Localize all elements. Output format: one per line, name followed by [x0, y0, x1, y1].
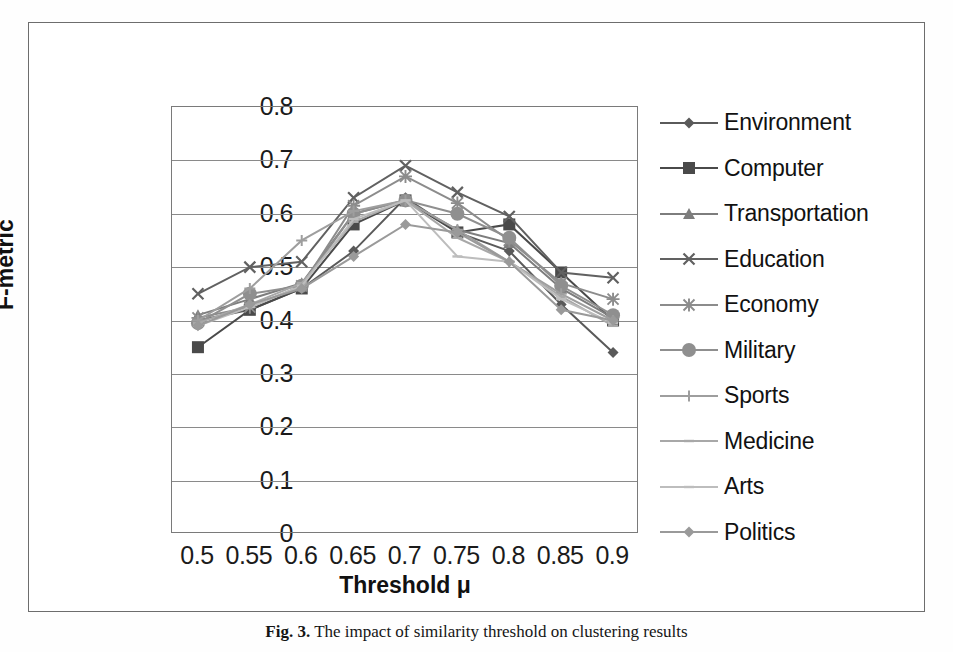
legend-marker-circle-icon: [660, 341, 718, 359]
legend-swatch: [660, 252, 718, 266]
legend-marker-dash-icon: [660, 432, 718, 450]
legend-swatch: [660, 343, 718, 357]
data-point-diamond: [400, 219, 411, 230]
legend-marker-triangle-icon: [660, 205, 718, 223]
legend-item-computer[interactable]: Computer: [660, 146, 910, 192]
legend-swatch: [660, 389, 718, 403]
legend-marker-star-icon: [660, 296, 718, 314]
legend-item-economy[interactable]: Economy: [660, 282, 910, 328]
data-point-plus: [684, 390, 695, 401]
legend-swatch: [660, 298, 718, 312]
legend-label: Military: [724, 337, 795, 364]
legend-swatch: [660, 525, 718, 539]
data-point-cross: [400, 160, 411, 171]
caption-text: The impact of similarity threshold on cl…: [314, 622, 687, 641]
legend-swatch: [660, 116, 718, 130]
legend-label: Sports: [724, 382, 789, 409]
legend-marker-plus-icon: [660, 387, 718, 405]
legend-item-medicine[interactable]: Medicine: [660, 419, 910, 465]
data-point-circle: [450, 207, 464, 221]
legend-marker-diamond-icon: [660, 523, 718, 541]
data-point-diamond: [684, 117, 695, 128]
legend-label: Education: [724, 246, 825, 273]
legend-label: Medicine: [724, 428, 814, 455]
legend-item-sports[interactable]: Sports: [660, 373, 910, 419]
figure-container: F-metric 00.10.20.30.40.50.60.70.8 0.50.…: [0, 0, 953, 652]
legend-label: Arts: [724, 473, 764, 500]
data-point-cross: [452, 187, 463, 198]
data-point-star: [683, 298, 696, 311]
data-point-square: [683, 162, 695, 174]
chart-legend: EnvironmentComputerTransportationEducati…: [660, 100, 910, 555]
legend-label: Computer: [724, 155, 823, 182]
data-point-diamond: [684, 527, 695, 538]
legend-marker-cross-icon: [660, 250, 718, 268]
legend-marker-square-icon: [660, 159, 718, 177]
legend-item-politics[interactable]: Politics: [660, 510, 910, 556]
legend-marker-diamond-icon: [660, 114, 718, 132]
caption-number: Fig. 3.: [265, 622, 310, 641]
data-point-square: [192, 341, 204, 353]
figure-caption: Fig. 3. The impact of similarity thresho…: [0, 622, 953, 652]
data-point-triangle: [683, 208, 695, 219]
series-politics: [192, 219, 618, 331]
data-point-star: [399, 170, 412, 183]
series-environment: [192, 192, 618, 358]
legend-item-education[interactable]: Education: [660, 237, 910, 283]
legend-item-military[interactable]: Military: [660, 328, 910, 374]
data-point-circle: [682, 343, 696, 357]
x-tick-label: 0.9: [577, 541, 647, 570]
legend-item-environment[interactable]: Environment: [660, 100, 910, 146]
series-computer: [192, 194, 619, 353]
data-point-cross: [684, 254, 695, 265]
data-point-star: [607, 293, 620, 306]
legend-label: Politics: [724, 519, 795, 546]
legend-swatch: [660, 434, 718, 448]
legend-marker-dash-icon: [660, 478, 718, 496]
legend-swatch: [660, 161, 718, 175]
legend-item-transportation[interactable]: Transportation: [660, 191, 910, 237]
y-axis-label: F-metric: [0, 219, 19, 310]
x-axis-label: Threshold μ: [339, 572, 471, 599]
data-point-circle: [502, 231, 516, 245]
legend-label: Environment: [724, 109, 851, 136]
legend-label: Transportation: [724, 200, 869, 227]
plot-area: [171, 106, 638, 533]
data-point-cross: [192, 288, 203, 299]
series-lines: [172, 107, 639, 534]
legend-label: Economy: [724, 291, 818, 318]
legend-item-arts[interactable]: Arts: [660, 464, 910, 510]
legend-swatch: [660, 480, 718, 494]
legend-swatch: [660, 207, 718, 221]
